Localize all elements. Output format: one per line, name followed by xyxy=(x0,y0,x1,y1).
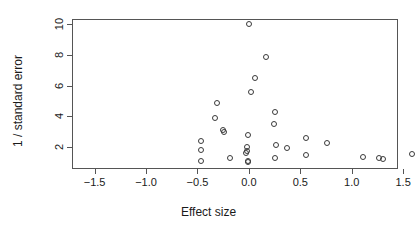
x-axis-tick xyxy=(300,169,301,174)
funnel-plot: −1.5−1.0−0.50.00.51.01.5246810 Effect si… xyxy=(0,0,417,233)
x-axis-tick xyxy=(352,169,353,174)
y-axis-tick-label: 4 xyxy=(53,109,65,123)
x-axis-tick-label: −1.5 xyxy=(73,176,117,188)
y-axis-tick-label: 6 xyxy=(53,79,65,93)
x-axis-tick xyxy=(249,169,250,174)
x-axis-tick-label: 1.0 xyxy=(330,176,374,188)
y-axis-title: 1 / standard error xyxy=(11,21,25,181)
data-point xyxy=(409,151,415,157)
x-axis-tick-label: 1.5 xyxy=(381,176,417,188)
plot-frame xyxy=(72,19,398,169)
y-axis-tick xyxy=(67,55,72,56)
x-axis-tick-label: 0.5 xyxy=(278,176,322,188)
y-axis-tick-label: 2 xyxy=(53,140,65,154)
y-axis-tick xyxy=(67,147,72,148)
x-axis-tick-label: −1.0 xyxy=(124,176,168,188)
x-axis-tick xyxy=(403,169,404,174)
x-axis-tick-label: −0.5 xyxy=(175,176,219,188)
x-axis-tick xyxy=(95,169,96,174)
x-axis-title: Effect size xyxy=(0,205,417,219)
y-axis-tick xyxy=(67,86,72,87)
x-axis-tick xyxy=(146,169,147,174)
x-axis-tick xyxy=(197,169,198,174)
y-axis-tick xyxy=(67,24,72,25)
x-axis-tick-label: 0.0 xyxy=(227,176,271,188)
y-axis-tick-label: 10 xyxy=(53,17,65,31)
y-axis-tick-label: 8 xyxy=(53,48,65,62)
y-axis-tick xyxy=(67,116,72,117)
